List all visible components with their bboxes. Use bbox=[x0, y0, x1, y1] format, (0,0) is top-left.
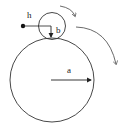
label-a: a bbox=[67, 65, 71, 75]
label-h: h bbox=[27, 10, 32, 20]
rolling-direction-arrow bbox=[76, 27, 116, 64]
small-rotation-arrow bbox=[60, 6, 75, 16]
rolling-circle-diagram: h b a bbox=[0, 0, 124, 129]
label-b: b bbox=[56, 25, 61, 35]
